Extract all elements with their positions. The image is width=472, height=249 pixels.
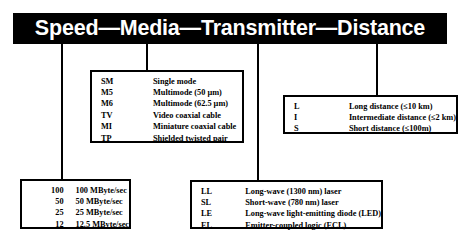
media-code: SM <box>92 76 153 87</box>
table-row: SL Short-wave (780 nm) laser <box>192 197 381 208</box>
connector-line-transmitter <box>257 43 259 180</box>
table-row: M6 Multimode (62.5 µm) <box>92 99 242 110</box>
table-row: SM Single mode <box>92 76 242 87</box>
distance-table: L Long distance (≤10 km) I Intermediate … <box>285 101 456 135</box>
table-row: S Short distance (≤100m) <box>285 124 456 135</box>
speed-code: 100 <box>22 185 76 196</box>
media-description: Video coaxial cable <box>153 110 242 121</box>
distance-definition-box: L Long distance (≤10 km) I Intermediate … <box>283 95 458 134</box>
transmitter-code: SL <box>192 197 245 208</box>
transmitter-code: LL <box>192 186 245 197</box>
media-code: TP <box>92 133 153 144</box>
media-code: M5 <box>92 87 153 98</box>
table-row: 100 100 MByte/sec <box>22 185 129 196</box>
media-description: Miniature coaxial cable <box>153 122 242 133</box>
connector-line-speed <box>61 43 63 179</box>
media-code: TV <box>92 110 153 121</box>
speed-code: 12 <box>22 219 76 230</box>
media-code: M6 <box>92 99 153 110</box>
media-definition-box: SM Single mode M5 Multimode (50 µm) M6 M… <box>90 70 244 143</box>
distance-description: Intermediate distance (≤2 km) <box>349 112 456 123</box>
transmitter-description: Emitter-coupled logic (ECL) <box>245 220 381 231</box>
media-description: Shielded twisted pair <box>153 133 242 144</box>
banner-title: Speed—Media—Transmitter—Distance <box>13 13 447 44</box>
transmitter-code: LE <box>192 209 245 220</box>
transmitter-table: LL Long-wave (1300 nm) laser SL Short-wa… <box>192 186 381 232</box>
table-row: TV Video coaxial cable <box>92 110 242 121</box>
distance-description: Short distance (≤100m) <box>349 124 456 135</box>
transmitter-description: Long-wave light-emitting diode (LED) <box>245 209 381 220</box>
speed-code: 50 <box>22 196 76 207</box>
diagram-canvas: Speed—Media—Transmitter—Distance SM Sing… <box>0 0 472 249</box>
transmitter-code: EL <box>192 220 245 231</box>
distance-description: Long distance (≤10 km) <box>349 101 456 112</box>
table-row: 12 12.5 MByte/sec <box>22 219 129 230</box>
speed-table: 100 100 MByte/sec 50 50 MByte/sec 25 25 … <box>22 185 129 231</box>
table-row: LE Long-wave light-emitting diode (LED) <box>192 209 381 220</box>
table-row: TP Shielded twisted pair <box>92 133 242 144</box>
transmitter-definition-box: LL Long-wave (1300 nm) laser SL Short-wa… <box>190 180 383 229</box>
speed-description: 50 MByte/sec <box>76 196 129 207</box>
table-row: 25 25 MByte/sec <box>22 208 129 219</box>
transmitter-description: Long-wave (1300 nm) laser <box>245 186 381 197</box>
media-description: Single mode <box>153 76 242 87</box>
speed-code: 25 <box>22 208 76 219</box>
distance-code: L <box>285 101 349 112</box>
table-row: I Intermediate distance (≤2 km) <box>285 112 456 123</box>
connector-line-media <box>146 43 148 71</box>
speed-description: 100 MByte/sec <box>76 185 129 196</box>
transmitter-description: Short-wave (780 nm) laser <box>245 197 381 208</box>
media-description: Multimode (62.5 µm) <box>153 99 242 110</box>
table-row: EL Emitter-coupled logic (ECL) <box>192 220 381 231</box>
table-row: L Long distance (≤10 km) <box>285 101 456 112</box>
table-row: 50 50 MByte/sec <box>22 196 129 207</box>
speed-description: 25 MByte/sec <box>76 208 129 219</box>
speed-definition-box: 100 100 MByte/sec 50 50 MByte/sec 25 25 … <box>20 179 131 229</box>
connector-line-distance <box>376 43 378 95</box>
table-row: MI Miniature coaxial cable <box>92 122 242 133</box>
distance-code: I <box>285 112 349 123</box>
table-row: M5 Multimode (50 µm) <box>92 87 242 98</box>
speed-description: 12.5 MByte/sec <box>76 219 129 230</box>
table-row: LL Long-wave (1300 nm) laser <box>192 186 381 197</box>
media-code: MI <box>92 122 153 133</box>
media-description: Multimode (50 µm) <box>153 87 242 98</box>
media-table: SM Single mode M5 Multimode (50 µm) M6 M… <box>92 76 242 144</box>
distance-code: S <box>285 124 349 135</box>
